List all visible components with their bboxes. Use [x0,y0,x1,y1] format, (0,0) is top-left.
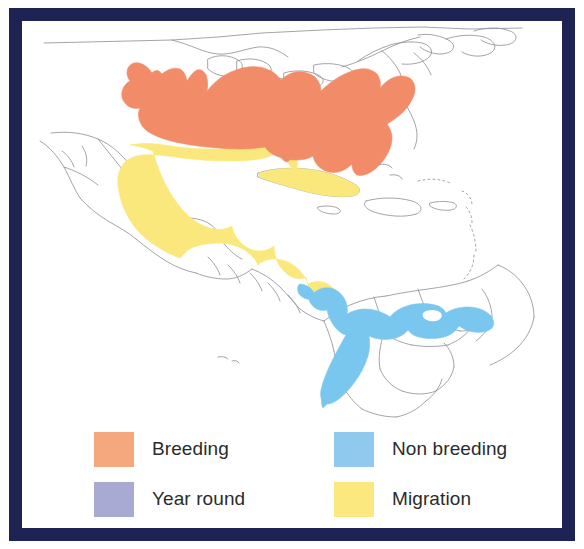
legend-item-year-round: Year round [94,476,334,522]
legend-label-breeding: Breeding [152,438,229,460]
range-area-breeding [122,63,415,176]
legend-item-migration: Migration [334,476,544,522]
legend-label-migration: Migration [392,488,471,510]
legend-swatch-year-round [94,482,134,517]
figure-frame-border: Breeding Non breeding Year round Migrati… [9,8,575,541]
range-map-figure: Breeding Non breeding Year round Migrati… [0,0,584,549]
map-panel [22,21,562,421]
legend-swatch-non-breeding [334,432,374,467]
legend-label-non-breeding: Non breeding [392,438,507,460]
map-legend: Breeding Non breeding Year round Migrati… [94,424,544,524]
legend-swatch-migration [334,482,374,517]
legend-swatch-breeding [94,432,134,467]
range-area-non-breeding [298,284,494,408]
legend-item-breeding: Breeding [94,426,334,472]
americas-range-map [22,21,562,421]
legend-item-non-breeding: Non breeding [334,426,544,472]
legend-label-year-round: Year round [152,488,245,510]
figure-content-area: Breeding Non breeding Year round Migrati… [22,21,562,528]
